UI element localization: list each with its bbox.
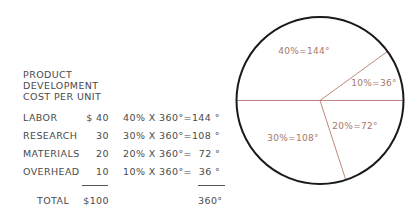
pie-slice-label-overhead: 10%=36° [351,78,397,88]
pie-slice-label-research: 30%=108° [267,133,319,143]
pie-divider-36deg [320,51,388,100]
pie-slice-label-labor: 40%=144° [278,46,330,56]
pie-slice-label-materials: 20%=72° [332,121,378,131]
pie-divider-288deg [320,101,346,180]
pie-chart: 40%=144°30%=108°20%=72°10%=36° [0,0,420,220]
